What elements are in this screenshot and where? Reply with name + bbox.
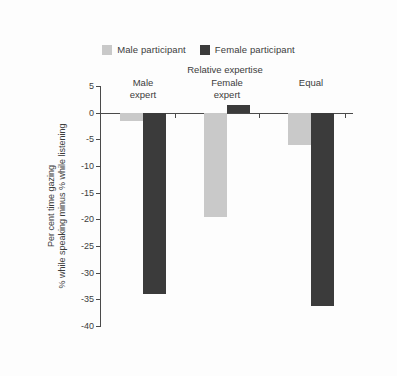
legend-entry-male-participant: Male participant bbox=[102, 44, 186, 55]
bar-female-expert-male-participant bbox=[204, 113, 227, 217]
legend-label-female: Female participant bbox=[215, 44, 295, 55]
bar-equal-female-participant bbox=[311, 113, 334, 307]
y-axis-title-line-2: % while speaking minus % while listening bbox=[57, 86, 68, 326]
bar-equal-male-participant bbox=[288, 113, 311, 145]
y-tick-label: -40 bbox=[81, 321, 94, 331]
y-tick-label: -15 bbox=[81, 188, 94, 198]
bar-group-equal bbox=[269, 86, 353, 326]
y-tick-label: -25 bbox=[81, 241, 94, 251]
legend-entry-female-participant: Female participant bbox=[200, 44, 295, 55]
legend-label-male: Male participant bbox=[117, 44, 186, 55]
y-tick-label: -10 bbox=[81, 161, 94, 171]
bar-chart-figure: Male participant Female participant Rela… bbox=[0, 0, 397, 376]
y-tick-label: -5 bbox=[86, 134, 94, 144]
chart-legend: Male participant Female participant bbox=[0, 44, 397, 55]
y-axis-title-line-1: Per cent time gazing bbox=[46, 86, 57, 326]
y-axis-title: Per cent time gazing % while speaking mi… bbox=[46, 86, 68, 326]
y-tick-mark bbox=[96, 326, 101, 327]
legend-swatch-female bbox=[200, 45, 210, 55]
bar-group-female-expert bbox=[185, 86, 269, 326]
y-tick-label: -30 bbox=[81, 268, 94, 278]
bar-group-male-expert bbox=[101, 86, 185, 326]
x-axis-title: Relative expertise bbox=[100, 64, 350, 75]
y-tick-label: -35 bbox=[81, 294, 94, 304]
plot-area: 50-5-10-15-20-25-30-35-40 bbox=[101, 86, 353, 326]
y-tick-label: -20 bbox=[81, 214, 94, 224]
bar-female-expert-female-participant bbox=[227, 105, 250, 113]
y-tick-label: 0 bbox=[89, 108, 94, 118]
bar-male-expert-male-participant bbox=[120, 113, 143, 121]
bar-male-expert-female-participant bbox=[143, 113, 166, 294]
legend-swatch-male bbox=[102, 45, 112, 55]
y-tick-label: 5 bbox=[89, 81, 94, 91]
